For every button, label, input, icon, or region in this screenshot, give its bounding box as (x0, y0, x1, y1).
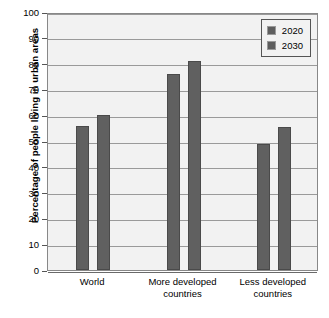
gridline (48, 65, 317, 66)
legend-item[interactable]: 2030 (267, 38, 303, 53)
bar (257, 144, 270, 270)
bar (97, 115, 110, 270)
legend-label: 2030 (282, 41, 303, 51)
bar (278, 127, 291, 270)
y-axis-tick-label: 50 (5, 137, 39, 147)
y-axis-tick-label: 60 (5, 111, 39, 121)
bar (167, 74, 180, 270)
y-axis-tick-label: 90 (5, 34, 39, 44)
legend-item[interactable]: 2020 (267, 23, 303, 38)
x-axis-label-line: Less developed (219, 276, 327, 288)
y-axis-tick-label: 30 (5, 189, 39, 199)
bar (76, 126, 89, 270)
legend-swatch-icon (267, 26, 276, 35)
bar-chart: Percentage of people living in urban are… (0, 0, 329, 318)
y-axis-tick-label: 10 (5, 240, 39, 250)
gridline (48, 91, 317, 92)
y-axis-tick-label: 0 (5, 266, 39, 276)
y-axis-tick-label: 20 (5, 214, 39, 224)
bar (188, 61, 201, 270)
y-axis-tick-label: 40 (5, 163, 39, 173)
y-axis-tick-label: 80 (5, 60, 39, 70)
plot-area: 2020 2030 (47, 13, 318, 271)
gridline (48, 14, 317, 15)
legend-label: 2020 (282, 26, 303, 36)
x-axis-label-line: countries (219, 288, 327, 300)
x-axis-label: Less developedcountries (219, 276, 327, 299)
gridline (48, 117, 317, 118)
y-axis-tick-label: 70 (5, 85, 39, 95)
y-axis-tick-label: 100 (5, 8, 39, 18)
legend: 2020 2030 (261, 19, 311, 57)
gridline (48, 272, 317, 273)
legend-swatch-icon (267, 41, 276, 50)
